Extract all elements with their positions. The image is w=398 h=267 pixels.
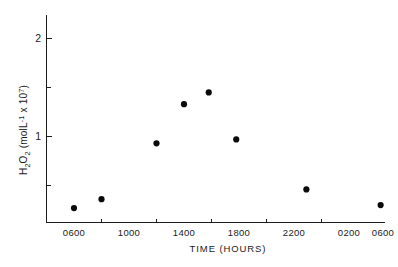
ylabel-close: ) bbox=[18, 85, 29, 89]
y-tick-labels: 2 1 bbox=[35, 32, 41, 142]
ylabel-open: (molL bbox=[18, 122, 29, 151]
data-point bbox=[153, 140, 159, 146]
data-point bbox=[378, 202, 384, 208]
data-point bbox=[233, 136, 239, 142]
ylabel-mid: x 10 bbox=[18, 92, 29, 115]
data-points-layer bbox=[71, 89, 384, 211]
data-point bbox=[206, 89, 212, 95]
data-point bbox=[181, 101, 187, 107]
ylabel-o: O bbox=[18, 155, 29, 163]
y-axis-title: H2O2 (molL-1 x 107) bbox=[17, 85, 32, 175]
x-tick-label-2: 1400 bbox=[173, 227, 195, 238]
x-axis-title: TIME (HOURS) bbox=[190, 243, 267, 254]
x-tick-label-4: 2200 bbox=[283, 227, 305, 238]
ylabel-exp-minus-one: -1 bbox=[17, 115, 26, 122]
x-tick-label-3: 1800 bbox=[228, 227, 250, 238]
y-tick-label-1: 1 bbox=[35, 130, 41, 142]
ylabel-h: H bbox=[18, 168, 29, 175]
data-point bbox=[98, 196, 104, 202]
x-tick-label-5: 0200 bbox=[338, 227, 360, 238]
data-point bbox=[71, 205, 77, 211]
x-tick-label-0: 0600 bbox=[63, 227, 85, 238]
data-point bbox=[303, 186, 309, 192]
chart-figure: 2 1 0600 1000 1400 1800 2200 0200 0600 T… bbox=[0, 0, 398, 267]
svg-text:H2O2 (molL-1 x 107): H2O2 (molL-1 x 107) bbox=[17, 85, 32, 175]
x-tick-label-1: 1000 bbox=[118, 227, 140, 238]
y-tick-label-2: 2 bbox=[35, 32, 41, 44]
x-tick-labels: 0600 1000 1400 1800 2200 0200 0600 bbox=[63, 227, 394, 238]
scatter-plot-canvas: 2 1 0600 1000 1400 1800 2200 0200 0600 T… bbox=[0, 0, 398, 267]
axes-group bbox=[47, 15, 386, 223]
y-tick-marks bbox=[47, 39, 53, 186]
x-tick-marks bbox=[102, 219, 322, 223]
x-tick-label-6: 0600 bbox=[372, 227, 394, 238]
